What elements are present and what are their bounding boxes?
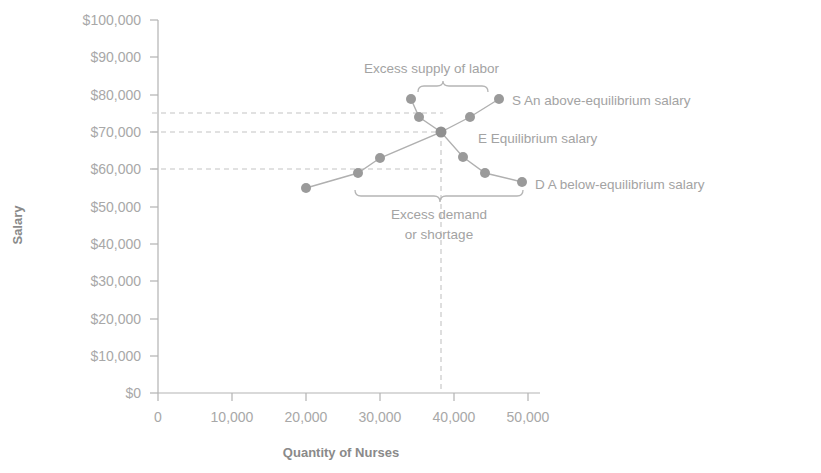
x-axis-title: Quantity of Nurses	[283, 445, 399, 460]
x-axis-tick-labels: 0 10,000 20,000 30,000 40,000 50,000	[154, 409, 550, 425]
excess-demand-brace	[355, 190, 523, 202]
excess-demand-label-line1: Excess demand	[391, 207, 487, 222]
equilibrium-label: E Equilibrium salary	[478, 131, 598, 146]
demand-point-5	[458, 152, 468, 162]
excess-supply-brace	[418, 81, 488, 92]
excess-demand-label-line2: or shortage	[405, 227, 473, 242]
x-axis-ticks	[158, 393, 528, 401]
demand-point-6	[480, 168, 490, 178]
demand-markers	[301, 152, 527, 193]
y-tick-60000: $60,000	[90, 161, 141, 177]
supply-demand-chart: $100,000 $90,000 $80,000 $70,000 $60,000…	[0, 0, 821, 473]
y-axis-tick-labels: $100,000 $90,000 $80,000 $70,000 $60,000…	[83, 12, 142, 401]
y-tick-20000: $20,000	[90, 311, 141, 327]
y-tick-30000: $30,000	[90, 273, 141, 289]
y-tick-50000: $50,000	[90, 199, 141, 215]
y-tick-90000: $90,000	[90, 49, 141, 65]
above-equilibrium-label: S An above-equilibrium salary	[512, 93, 691, 108]
demand-point-7	[517, 177, 527, 187]
supply-point-4	[465, 112, 475, 122]
supply-point-5	[494, 94, 504, 104]
supply-markers	[406, 94, 504, 122]
supply-curve	[411, 99, 499, 132]
x-tick-50000: 50,000	[507, 409, 550, 425]
y-tick-80000: $80,000	[90, 87, 141, 103]
x-tick-10000: 10,000	[211, 409, 254, 425]
supply-point-1	[406, 94, 416, 104]
y-tick-40000: $40,000	[90, 236, 141, 252]
x-tick-20000: 20,000	[285, 409, 328, 425]
y-tick-70000: $70,000	[90, 124, 141, 140]
x-tick-40000: 40,000	[433, 409, 476, 425]
reference-lines	[152, 113, 443, 393]
chart-container: $100,000 $90,000 $80,000 $70,000 $60,000…	[0, 0, 821, 473]
x-tick-30000: 30,000	[359, 409, 402, 425]
y-tick-10000: $10,000	[90, 348, 141, 364]
equilibrium-marker	[436, 127, 447, 138]
excess-supply-label: Excess supply of labor	[364, 61, 500, 76]
x-tick-0: 0	[154, 409, 162, 425]
demand-point-1	[301, 183, 311, 193]
demand-point-3	[375, 153, 385, 163]
demand-point-2	[353, 168, 363, 178]
y-axis-ticks	[150, 20, 158, 393]
y-axis-title: Salary	[10, 205, 25, 245]
y-tick-100000: $100,000	[83, 12, 142, 28]
y-tick-0: $0	[125, 385, 141, 401]
supply-point-2	[414, 112, 424, 122]
below-equilibrium-label: D A below-equilibrium salary	[535, 177, 705, 192]
